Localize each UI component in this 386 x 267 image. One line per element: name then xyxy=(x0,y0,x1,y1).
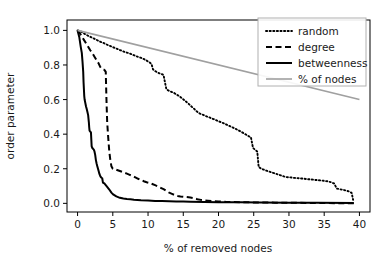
y-axis-ticks: 0.00.20.40.60.81.0 xyxy=(43,24,67,209)
x-tick-label: 35 xyxy=(318,218,331,230)
x-tick-label: 20 xyxy=(212,218,225,230)
legend-label-degree: degree xyxy=(298,41,335,53)
chart-legend: randomdegreebetweenness% of nodes xyxy=(258,18,367,86)
y-tick-label: 0.0 xyxy=(43,197,60,209)
y-tick-label: 0.6 xyxy=(43,94,60,106)
y-tick-label: 0.2 xyxy=(43,163,60,175)
y-tick-label: 0.8 xyxy=(43,59,60,71)
x-tick-label: 25 xyxy=(247,218,260,230)
legend-label--of-nodes: % of nodes xyxy=(298,73,356,85)
y-axis-label: order parameter xyxy=(4,72,16,159)
x-tick-label: 10 xyxy=(141,218,154,230)
chart-figure: 0510152025303540 0.00.20.40.60.81.0 % of… xyxy=(0,0,386,267)
x-tick-label: 30 xyxy=(282,218,295,230)
chart-canvas: 0510152025303540 0.00.20.40.60.81.0 % of… xyxy=(0,0,386,267)
x-axis-label: % of removed nodes xyxy=(164,242,272,254)
y-tick-label: 1.0 xyxy=(43,24,60,36)
y-tick-label: 0.4 xyxy=(43,128,60,140)
x-tick-label: 15 xyxy=(177,218,190,230)
x-tick-label: 5 xyxy=(109,218,116,230)
legend-label-random: random xyxy=(298,25,339,37)
x-axis-ticks: 0510152025303540 xyxy=(74,212,366,230)
x-tick-label: 0 xyxy=(74,218,81,230)
x-tick-label: 40 xyxy=(353,218,366,230)
legend-label-betweenness: betweenness xyxy=(298,57,367,69)
